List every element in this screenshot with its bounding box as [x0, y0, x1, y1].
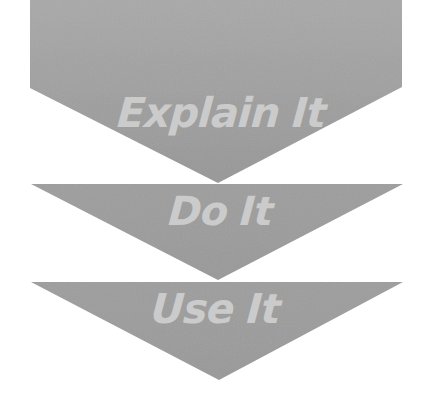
step-3-label: Use It [0, 284, 437, 334]
process-flow-diagram: Explain It Do It Use It [0, 0, 439, 393]
step-2-label: Do It [0, 187, 439, 235]
step-1-label: Explain It [0, 88, 439, 138]
